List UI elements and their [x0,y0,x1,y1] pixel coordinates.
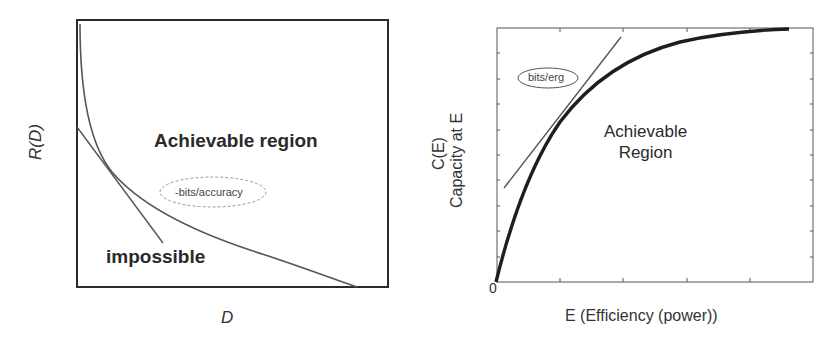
right-x-axis-label: E (Efficiency (power)) [565,308,718,324]
left-y-axis-label: R(D) [27,124,44,160]
right-tangent-line [504,37,621,188]
right-y-axis-label-line1: C(E) [431,137,447,170]
right-y-axis-label-line2: Capacity at E [449,113,465,208]
right-region-line1: Achievable [604,121,687,142]
right-achievable-region-label: Achievable Region [604,121,687,164]
right-region-line2: Region [604,142,687,163]
left-impossible-label: impossible [106,247,205,266]
left-tangent-line [77,127,163,243]
right-slope-label: bits/erg [528,72,564,83]
diagram-canvas [0,0,839,345]
left-slope-label: -bits/accuracy [175,187,243,198]
left-x-axis-label: D [221,309,233,326]
left-achievable-region-label: Achievable region [154,131,318,150]
right-origin-label: 0 [489,281,497,295]
